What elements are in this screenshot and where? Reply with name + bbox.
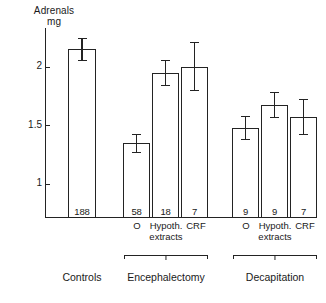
bar-controls-o: 188 [68, 49, 96, 218]
error-bar-stem-enceph-o [136, 134, 137, 153]
error-bar-stem-controls-o [81, 38, 82, 60]
y-axis-line [45, 28, 46, 218]
bracket-tick-left [233, 255, 234, 259]
error-bar-stem-decap-crf [303, 99, 304, 135]
error-bar-cap-bottom-decap-hypoth [270, 117, 279, 118]
bar-sample-size: 7 [291, 207, 316, 217]
error-bar-cap-top-decap-hypoth [270, 92, 279, 93]
treatment-label-text: CRF [186, 220, 206, 231]
group-label-text: Decapitation [246, 271, 304, 283]
bar-enceph-o: 58 [123, 143, 150, 218]
error-bar-stem-enceph-crf [194, 42, 195, 91]
y-tick-mark-2 [45, 67, 50, 68]
group-label-decapitation: Decapitation [229, 272, 321, 283]
bracket-center-stem [165, 255, 166, 260]
y-axis-title-line1: Adrenals [34, 5, 74, 16]
treatment-label-text-line2: extracts [144, 232, 188, 243]
y-tick-label-2-wrap: 2 [18, 61, 42, 72]
treatment-label-enceph-crf: CRF [181, 221, 211, 232]
bar-decap-hypoth: 9 [261, 105, 288, 219]
error-bar-cap-bottom-decap-o [241, 139, 250, 140]
y-tick-label-2: 2 [36, 61, 42, 71]
error-bar-stem-enceph-hypoth [165, 60, 166, 86]
error-bar-cap-top-controls-o [78, 38, 87, 39]
bar-sample-size: 188 [69, 207, 95, 217]
treatment-label-text: CRF [295, 220, 315, 231]
error-bar-cap-bottom-enceph-o [132, 152, 141, 153]
group-label-text: Encephalectomy [127, 271, 205, 283]
error-bar-cap-top-enceph-hypoth [161, 60, 170, 61]
error-bar-cap-bottom-decap-crf [299, 134, 308, 135]
error-bar-cap-bottom-enceph-hypoth [161, 85, 170, 86]
error-bar-stem-decap-o [245, 116, 246, 140]
bar-sample-size: 9 [233, 207, 258, 217]
bar-enceph-hypoth: 18 [152, 73, 179, 219]
treatment-label-text-line1: Hypoth. [150, 220, 183, 231]
y-tick-label-1-5-wrap: 1.5 [18, 120, 42, 131]
bracket-center-stem [274, 255, 275, 260]
group-label-controls: Controls [42, 272, 122, 283]
bar-decap-o: 9 [232, 128, 259, 219]
y-tick-mark-1 [45, 184, 50, 185]
group-bracket-decapitation [231, 255, 319, 262]
treatment-label-text: O [133, 220, 140, 231]
bar-sample-size: 58 [124, 207, 149, 217]
group-label-text: Controls [62, 271, 101, 283]
bar-sample-size: 9 [262, 207, 287, 217]
treatment-label-text-line2: extracts [253, 232, 297, 243]
bracket-tick-right [316, 255, 317, 259]
y-tick-label-1: 1 [36, 178, 42, 188]
group-bracket-encephalectomy [122, 255, 210, 262]
bar-sample-size: 18 [153, 207, 178, 217]
error-bar-cap-bottom-enceph-crf [190, 90, 199, 91]
error-bar-cap-top-decap-crf [299, 99, 308, 100]
group-label-encephalectomy: Encephalectomy [120, 272, 212, 283]
error-bar-cap-bottom-controls-o [78, 60, 87, 61]
bracket-tick-left [124, 255, 125, 259]
y-axis-title: Adrenals mg [14, 6, 94, 27]
error-bar-cap-top-decap-o [241, 116, 250, 117]
y-tick-label-1-5: 1.5 [28, 120, 42, 130]
y-tick-label-1-wrap: 1 [18, 178, 42, 189]
bar-sample-size: 7 [182, 207, 207, 217]
error-bar-cap-top-enceph-crf [190, 42, 199, 43]
treatment-label-text-line1: Hypoth. [259, 220, 292, 231]
bar-chart-figure: Adrenals mg 2 1.5 1 188 58 18 7 9 [0, 0, 326, 303]
error-bar-stem-decap-hypoth [274, 92, 275, 118]
y-tick-mark-1-5 [45, 125, 50, 126]
treatment-label-decap-crf: CRF [290, 221, 320, 232]
bracket-tick-right [207, 255, 208, 259]
y-axis-title-line2: mg [14, 17, 94, 28]
treatment-label-text: O [242, 220, 249, 231]
error-bar-cap-top-enceph-o [132, 134, 141, 135]
